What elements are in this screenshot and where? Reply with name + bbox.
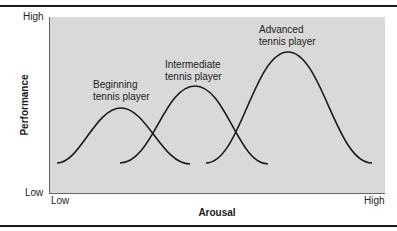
y-tick-low: Low (25, 187, 43, 198)
x-tick-low: Low (51, 195, 69, 206)
annotation-beginning: Beginning tennis player (93, 79, 150, 103)
annotation-advanced: Advanced tennis player (259, 24, 316, 48)
curve-beginning (57, 108, 190, 164)
x-axis-label: Arousal (198, 207, 235, 218)
y-axis-label: Performance (19, 74, 30, 135)
curve-advanced (206, 52, 372, 163)
annotation-intermediate: Intermediate tennis player (165, 59, 222, 83)
y-tick-high: High (23, 11, 44, 22)
x-tick-high: High (364, 195, 385, 206)
bottom-rule (0, 225, 397, 227)
